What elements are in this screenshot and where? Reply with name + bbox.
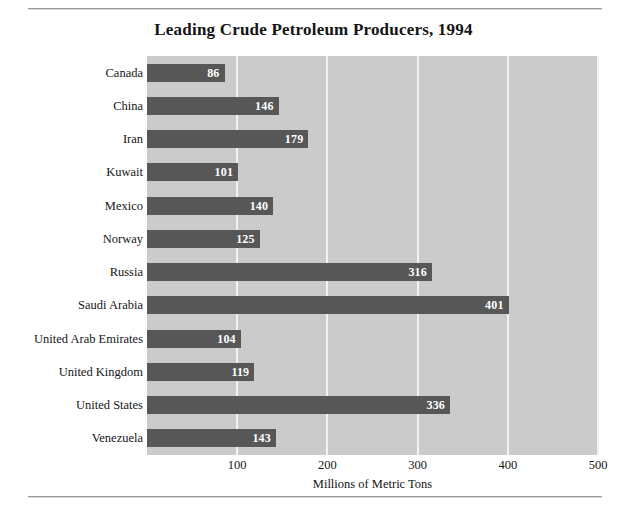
category-label: Mexico [0,199,143,213]
bottom-divider-rule [28,496,602,498]
bar-row: Mexico140 [0,197,627,215]
bar-row: United Kingdom119 [0,363,627,381]
category-label: Canada [0,66,143,80]
bar-rows: Canada86China146Iran179Kuwait101Mexico14… [0,56,627,455]
top-divider-rule [28,8,602,10]
bar-value-label: 336 [426,399,445,412]
bar-row: China146 [0,97,627,115]
bar: 143 [147,429,276,447]
bar-row: Venezuela143 [0,429,627,447]
x-tick-label-500: 500 [568,458,627,473]
category-label: Russia [0,265,143,279]
bar-row: Iran179 [0,130,627,148]
category-label: Venezuela [0,431,143,445]
category-label: United Kingdom [0,365,143,379]
bar: 146 [147,97,279,115]
category-label: Iran [0,132,143,146]
bar-value-label: 125 [236,232,255,245]
bar: 125 [147,230,260,248]
bar-value-label: 179 [285,133,304,146]
bar-value-label: 101 [214,166,233,179]
bar-row: United States336 [0,396,627,414]
x-tick-label-400: 400 [478,458,538,473]
chart-figure: Leading Crude Petroleum Producers, 1994 … [0,0,627,512]
bar-value-label: 316 [408,266,427,279]
x-tick-label-300: 300 [388,458,448,473]
bar-value-label: 104 [217,332,236,345]
bar: 336 [147,396,450,414]
x-tick-label-200: 200 [297,458,357,473]
x-axis-ticks: 100200300400500 [0,458,627,478]
category-label: United Arab Emirates [0,332,143,346]
category-label: Saudi Arabia [0,298,143,312]
category-label: China [0,99,143,113]
bar-value-label: 140 [250,199,269,212]
bar: 179 [147,130,308,148]
category-label: United States [0,398,143,412]
bar: 401 [147,296,509,314]
bar: 119 [147,363,254,381]
x-axis-title: Millions of Metric Tons [147,477,598,492]
bar-row: Russia316 [0,263,627,281]
bar-value-label: 146 [255,99,274,112]
bar: 104 [147,330,241,348]
category-label: Norway [0,232,143,246]
bar-value-label: 143 [252,432,271,445]
bar-row: Kuwait101 [0,163,627,181]
bar: 316 [147,263,432,281]
bar: 140 [147,197,273,215]
bar-row: Saudi Arabia401 [0,296,627,314]
bar: 86 [147,64,225,82]
bar: 101 [147,163,238,181]
bar-value-label: 86 [207,66,219,79]
bar-value-label: 119 [231,365,249,378]
x-tick-label-100: 100 [207,458,267,473]
bar-row: United Arab Emirates104 [0,330,627,348]
bar-row: Canada86 [0,64,627,82]
category-label: Kuwait [0,165,143,179]
bar-row: Norway125 [0,230,627,248]
chart-title: Leading Crude Petroleum Producers, 1994 [0,20,627,40]
bar-value-label: 401 [485,299,504,312]
